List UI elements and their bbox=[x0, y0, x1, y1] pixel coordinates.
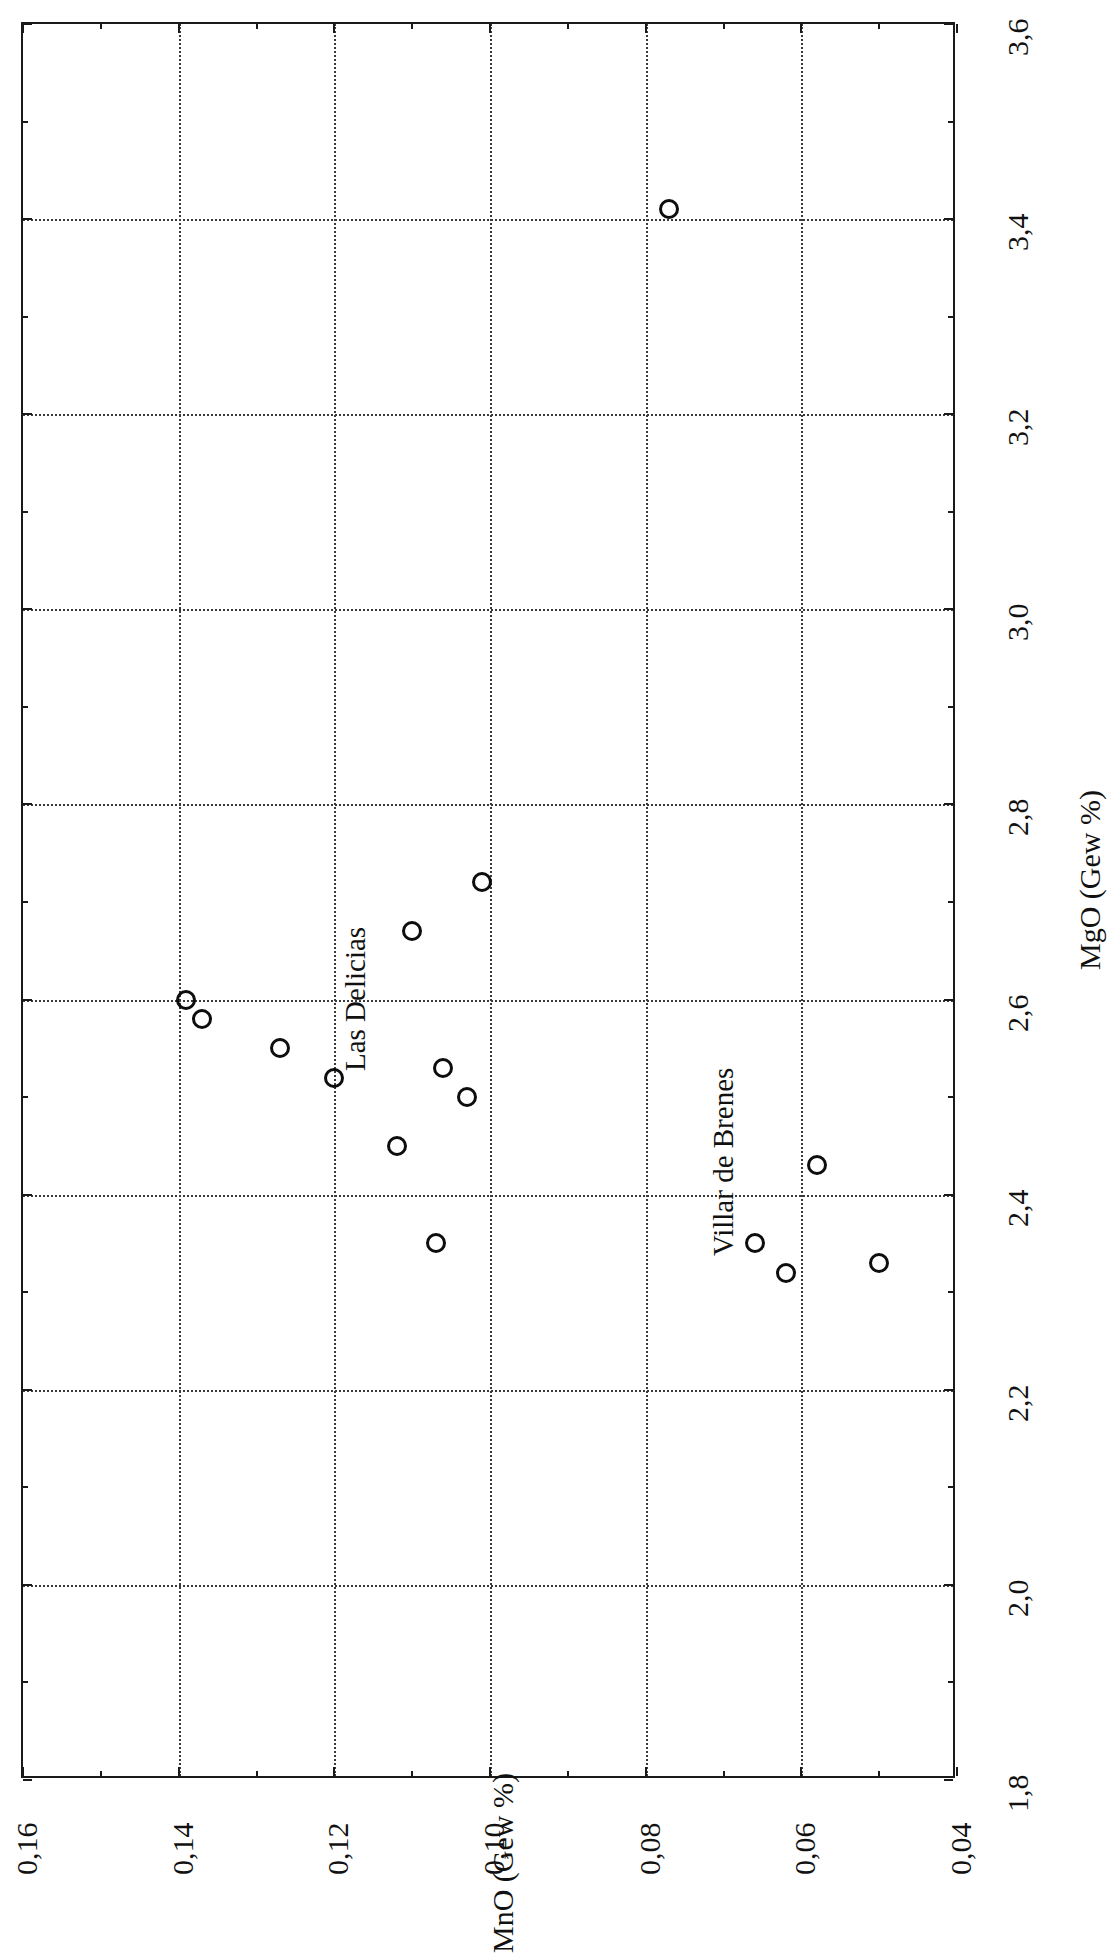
tick-mark-mno bbox=[800, 24, 802, 33]
tick-mark-mgo bbox=[944, 1194, 953, 1196]
tick-mark-mno bbox=[800, 1767, 802, 1776]
tick-mark-mgo bbox=[23, 1584, 32, 1586]
tick-mark-mgo-minor bbox=[23, 121, 28, 123]
tick-mark-mgo-minor bbox=[948, 1291, 953, 1293]
data-point-marker bbox=[402, 921, 422, 941]
tick-mark-mgo bbox=[23, 23, 32, 25]
tick-mark-mgo bbox=[23, 608, 32, 610]
tick-mark-mno-minor bbox=[878, 24, 880, 29]
mgo-tick-label: 2,0 bbox=[1001, 1579, 1035, 1617]
tick-mark-mgo-minor bbox=[23, 1681, 28, 1683]
data-point-marker bbox=[457, 1087, 477, 1107]
gridline-mgo bbox=[23, 1000, 953, 1002]
tick-mark-mgo-minor bbox=[23, 901, 28, 903]
tick-mark-mno bbox=[645, 24, 647, 33]
tick-mark-mno-minor bbox=[723, 24, 725, 29]
mgo-tick-label: 3,6 bbox=[1001, 19, 1035, 57]
mgo-tick-label: 2,8 bbox=[1001, 799, 1035, 837]
mno-tick-label: 0,08 bbox=[633, 1823, 667, 1876]
tick-mark-mgo bbox=[944, 23, 953, 25]
mgo-tick-label: 1,8 bbox=[1001, 1775, 1035, 1813]
tick-mark-mgo bbox=[23, 1779, 32, 1781]
mgo-tick-label: 2,6 bbox=[1001, 994, 1035, 1032]
tick-mark-mgo-minor bbox=[23, 1291, 28, 1293]
tick-mark-mgo-minor bbox=[23, 1096, 28, 1098]
tick-mark-mgo-minor bbox=[948, 1681, 953, 1683]
tick-mark-mgo bbox=[23, 413, 32, 415]
tick-mark-mno bbox=[956, 24, 958, 33]
data-point-marker bbox=[745, 1233, 765, 1253]
data-point-marker bbox=[426, 1233, 446, 1253]
tick-mark-mgo bbox=[23, 218, 32, 220]
tick-mark-mno-minor bbox=[567, 1771, 569, 1776]
tick-mark-mno bbox=[178, 1767, 180, 1776]
tick-mark-mno-minor bbox=[256, 1771, 258, 1776]
tick-mark-mno bbox=[22, 1767, 24, 1776]
gridline-mgo bbox=[23, 414, 953, 416]
mgo-tick-label: 3,4 bbox=[1001, 214, 1035, 252]
tick-mark-mno bbox=[178, 24, 180, 33]
mno-tick-label: 0,16 bbox=[10, 1823, 44, 1876]
tick-mark-mgo-minor bbox=[948, 1096, 953, 1098]
tick-mark-mgo-minor bbox=[23, 706, 28, 708]
mno-tick-label: 0,12 bbox=[321, 1823, 355, 1876]
tick-mark-mgo bbox=[23, 1389, 32, 1391]
tick-mark-mgo-minor bbox=[23, 511, 28, 513]
tick-mark-mgo-minor bbox=[948, 316, 953, 318]
gridline-mno bbox=[646, 24, 648, 1776]
mno-tick-label: 0,14 bbox=[166, 1823, 200, 1876]
tick-mark-mno bbox=[22, 24, 24, 33]
tick-mark-mno bbox=[956, 1767, 958, 1776]
tick-mark-mgo bbox=[944, 413, 953, 415]
tick-mark-mno-minor bbox=[411, 1771, 413, 1776]
data-point-marker bbox=[807, 1155, 827, 1175]
tick-mark-mgo-minor bbox=[23, 1486, 28, 1488]
tick-mark-mgo bbox=[23, 803, 32, 805]
data-point-marker bbox=[176, 990, 196, 1010]
data-point-marker bbox=[869, 1253, 889, 1273]
mno-tick-label: 0,04 bbox=[944, 1823, 978, 1876]
tick-mark-mgo-minor bbox=[948, 706, 953, 708]
gridline-mgo bbox=[23, 1585, 953, 1587]
tick-mark-mgo bbox=[944, 218, 953, 220]
tick-mark-mgo bbox=[23, 999, 32, 1001]
tick-mark-mgo bbox=[944, 1779, 953, 1781]
mno-tick-label: 0,10 bbox=[477, 1823, 511, 1876]
tick-mark-mgo bbox=[944, 803, 953, 805]
data-point-marker bbox=[270, 1038, 290, 1058]
gridline-mno bbox=[801, 24, 803, 1776]
mno-tick-label: 0,06 bbox=[788, 1823, 822, 1876]
gridline-mno bbox=[179, 24, 181, 1776]
data-point-marker bbox=[387, 1136, 407, 1156]
gridline-mgo bbox=[23, 804, 953, 806]
tick-mark-mno-minor bbox=[100, 1771, 102, 1776]
mgo-tick-label: 2,2 bbox=[1001, 1384, 1035, 1422]
tick-mark-mgo bbox=[23, 1194, 32, 1196]
tick-mark-mno-minor bbox=[723, 1771, 725, 1776]
tick-mark-mgo-minor bbox=[948, 901, 953, 903]
tick-mark-mgo-minor bbox=[948, 1486, 953, 1488]
mgo-axis-title: MgO (Gew %) bbox=[1073, 791, 1107, 971]
gridline-mno bbox=[490, 24, 492, 1776]
mgo-tick-label: 2,4 bbox=[1001, 1189, 1035, 1227]
tick-mark-mno-minor bbox=[411, 24, 413, 29]
gridline-mgo bbox=[23, 219, 953, 221]
tick-mark-mno bbox=[333, 1767, 335, 1776]
plot-area bbox=[21, 22, 955, 1778]
tick-mark-mno bbox=[645, 1767, 647, 1776]
mgo-tick-label: 3,2 bbox=[1001, 409, 1035, 447]
tick-mark-mgo bbox=[944, 999, 953, 1001]
data-point-marker bbox=[192, 1009, 212, 1029]
tick-mark-mgo-minor bbox=[948, 121, 953, 123]
tick-mark-mgo bbox=[944, 1584, 953, 1586]
tick-mark-mgo bbox=[944, 608, 953, 610]
tick-mark-mno-minor bbox=[100, 24, 102, 29]
tick-mark-mgo-minor bbox=[23, 316, 28, 318]
gridline-mgo bbox=[23, 609, 953, 611]
gridline-mgo bbox=[23, 1390, 953, 1392]
tick-mark-mno-minor bbox=[567, 24, 569, 29]
gridline-mno bbox=[334, 24, 336, 1776]
tick-mark-mno-minor bbox=[256, 24, 258, 29]
tick-mark-mno-minor bbox=[878, 1771, 880, 1776]
